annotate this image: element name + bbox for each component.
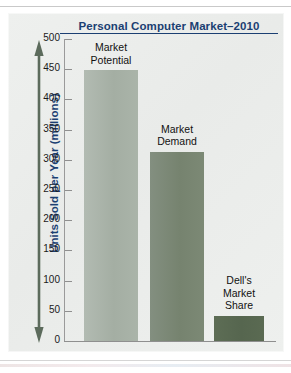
y-tick-label-50: 50 [30, 304, 60, 315]
chart-title: Personal Computer Market–2010 [60, 20, 278, 34]
y-tick-mark-300 [65, 160, 72, 161]
y-tick-label-150: 150 [30, 243, 60, 254]
bar-market-potential [84, 70, 138, 341]
page-bottom-rule [0, 360, 291, 361]
page-bottom-fringe [0, 364, 291, 367]
y-tick-mark-100 [65, 281, 72, 282]
y-tick-label-300: 300 [30, 153, 60, 164]
y-tick-150: 150 [22, 250, 72, 251]
y-tick-250: 250 [22, 190, 72, 191]
y-tick-label-0: 0 [30, 334, 60, 345]
y-tick-300: 300 [22, 160, 72, 161]
y-tick-label-400: 400 [30, 92, 60, 103]
y-tick-350: 350 [22, 130, 72, 131]
y-tick-mark-150 [65, 250, 72, 251]
y-tick-450: 450 [22, 69, 72, 70]
y-tick-mark-0 [65, 341, 72, 342]
y-tick-400: 400 [22, 99, 72, 100]
y-tick-200: 200 [22, 220, 72, 221]
bar-label-market-potential: Market Potential [72, 41, 150, 66]
plot-area: 500 450 400 350 300 250 200 150 [64, 39, 276, 349]
y-tick-500: 500 [22, 39, 72, 40]
y-tick-mark-50 [65, 311, 72, 312]
y-tick-mark-200 [65, 220, 72, 221]
y-tick-mark-400 [65, 99, 72, 100]
y-tick-label-350: 350 [30, 123, 60, 134]
y-tick-mark-350 [65, 130, 72, 131]
y-tick-100: 100 [22, 281, 72, 282]
y-tick-50: 50 [22, 311, 72, 312]
bar-label-dells-market-share: Dell's Market Share [204, 274, 274, 312]
page-top-rule [0, 6, 291, 7]
y-tick-0: 0 [22, 341, 72, 342]
category-axis-baseline [64, 341, 276, 342]
y-tick-label-100: 100 [30, 274, 60, 285]
y-tick-label-500: 500 [30, 32, 60, 43]
y-tick-label-250: 250 [30, 183, 60, 194]
y-tick-label-450: 450 [30, 62, 60, 73]
y-tick-mark-450 [65, 69, 72, 70]
bar-market-demand [150, 152, 204, 341]
bar-dells-market-share [214, 316, 264, 341]
y-tick-mark-250 [65, 190, 72, 191]
bar-label-market-demand: Market Demand [138, 123, 216, 148]
chart-panel: Personal Computer Market–2010 Units Sold… [8, 13, 284, 352]
y-tick-label-200: 200 [30, 213, 60, 224]
y-tick-mark-500 [65, 39, 72, 40]
